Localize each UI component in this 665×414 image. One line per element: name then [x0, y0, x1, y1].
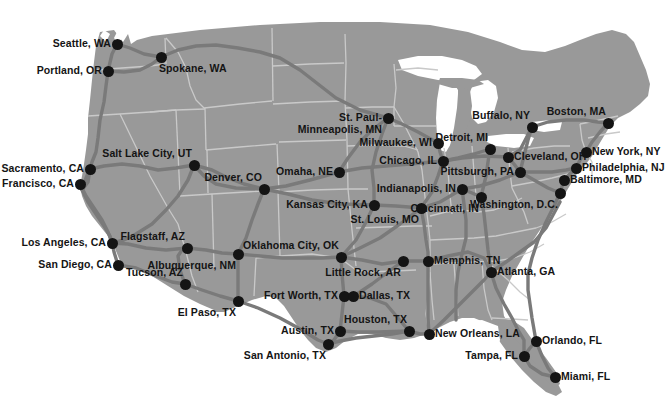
city-dot-icon[interactable] [180, 279, 191, 290]
city-dot-icon[interactable] [75, 179, 86, 190]
city-dot-icon[interactable] [233, 249, 244, 260]
city-label: Indianapolis, IN [377, 183, 456, 195]
city-label: Pittsburgh, PA [440, 166, 514, 178]
city-label: Milwaukee, WI [360, 137, 432, 149]
city-label: Detroit, MI [436, 132, 488, 144]
city-label: Atlanta, GA [497, 266, 555, 278]
city-label: Los Angeles, CA [21, 237, 106, 249]
city-dot-icon[interactable] [581, 147, 592, 158]
city-label: Chicago, IL [379, 155, 437, 167]
highway-austin-houston [340, 331, 409, 332]
city-dot-icon[interactable] [603, 118, 614, 129]
city-label: Dallas, TX [359, 290, 410, 302]
city-label: Kansas City, KA [286, 199, 368, 211]
city-dot-icon[interactable] [416, 203, 427, 214]
city-label: Houston, TX [344, 314, 407, 326]
city-dot-icon[interactable] [335, 326, 346, 337]
city-label: Salt Lake City, UT [102, 148, 192, 160]
city-dot-icon[interactable] [182, 243, 193, 254]
city-dot-icon[interactable] [531, 336, 542, 347]
city-label: El Paso, TX [178, 307, 236, 319]
city-label: St. Louis, MO [351, 214, 419, 226]
city-dot-icon[interactable] [348, 291, 359, 302]
city-dot-icon[interactable] [85, 164, 96, 175]
city-label: New York, NY [592, 146, 661, 158]
city-label: St. Paul- Minneapolis, MN [298, 112, 382, 135]
city-label: Austin, TX [281, 325, 334, 337]
city-dot-icon[interactable] [476, 192, 487, 203]
city-label: New Orleans, LA [435, 328, 520, 340]
city-dot-icon[interactable] [559, 175, 570, 186]
city-label: Fort Worth, TX [264, 290, 338, 302]
city-label: Memphis, TN [434, 255, 500, 267]
city-dot-icon[interactable] [336, 252, 347, 263]
city-dot-icon[interactable] [103, 66, 114, 77]
city-label: San Diego, CA [38, 259, 112, 271]
city-label: Philadelphia, NJ [582, 162, 665, 174]
city-dot-icon[interactable] [571, 163, 582, 174]
city-label: Tampa, FL [465, 350, 518, 362]
city-label: Buffalo, NY [472, 110, 530, 122]
city-label: Flagstaff, AZ [121, 231, 186, 243]
city-dot-icon[interactable] [323, 339, 334, 350]
city-dot-icon[interactable] [112, 39, 123, 50]
city-dot-icon[interactable] [486, 267, 497, 278]
city-label: Boston, MA [547, 106, 606, 118]
city-label: Cleveland, OH [514, 151, 587, 163]
city-label: Denver, CO [204, 172, 262, 184]
city-label: Omaha, NE [276, 166, 333, 178]
city-dot-icon[interactable] [334, 167, 345, 178]
city-dot-icon[interactable] [457, 184, 468, 195]
city-dot-icon[interactable] [107, 238, 118, 249]
city-dot-icon[interactable] [515, 167, 526, 178]
city-dot-icon[interactable] [485, 144, 496, 155]
city-label: Spokane, WA [159, 63, 227, 75]
city-dot-icon[interactable] [555, 188, 566, 199]
city-label: Seattle, WA [53, 38, 111, 50]
city-label: Miami, FL [561, 371, 610, 383]
city-dot-icon[interactable] [424, 329, 435, 340]
city-label: Tucson, AZ [126, 267, 183, 279]
city-dot-icon[interactable] [113, 260, 124, 271]
city-dot-icon[interactable] [189, 160, 200, 171]
city-dot-icon[interactable] [519, 351, 530, 362]
us-cities-map: Seattle, WAPortland, ORSpokane, WASt. Pa… [0, 0, 665, 414]
city-dot-icon[interactable] [259, 184, 270, 195]
city-label: Oklahoma City, OK [243, 240, 339, 252]
city-label: Baltimore, MD [570, 174, 642, 186]
city-label: Orlando, FL [542, 335, 602, 347]
city-label: Sacramento, CA [1, 163, 84, 175]
city-dot-icon[interactable] [404, 326, 415, 337]
city-dot-icon[interactable] [398, 256, 409, 267]
city-dot-icon[interactable] [503, 152, 514, 163]
city-label: Portland, OR [37, 65, 102, 77]
city-label: San Antonio, TX [244, 350, 326, 362]
city-dot-icon[interactable] [233, 296, 244, 307]
city-dot-icon[interactable] [527, 122, 538, 133]
city-dot-icon[interactable] [383, 113, 394, 124]
city-label: San Francisco, CA [0, 178, 74, 190]
city-dot-icon[interactable] [156, 52, 167, 63]
city-dot-icon[interactable] [423, 256, 434, 267]
city-dot-icon[interactable] [369, 200, 380, 211]
city-dot-icon[interactable] [550, 372, 561, 383]
city-label: Little Rock, AR [325, 267, 401, 279]
